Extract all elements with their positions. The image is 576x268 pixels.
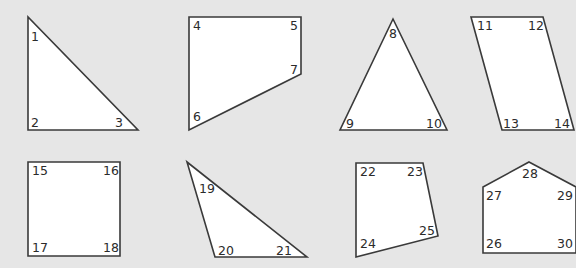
angle-label: 12 — [528, 18, 544, 33]
shape-irregular-quadrilateral: 22 23 25 24 — [356, 163, 438, 257]
angle-label: 26 — [486, 236, 502, 251]
angle-label: 23 — [407, 164, 423, 179]
angle-label: 21 — [276, 243, 292, 258]
shape-trapezoid-quadrilateral: 4 5 7 6 — [189, 17, 301, 130]
angle-label: 27 — [486, 188, 502, 203]
shape-parallelogram: 11 12 13 14 — [471, 17, 574, 131]
angle-shapes-diagram: 1 2 3 4 5 7 6 8 9 10 11 12 13 14 15 16 1… — [0, 0, 576, 268]
shape-right-triangle: 1 2 3 — [28, 17, 138, 130]
angle-label: 2 — [31, 115, 39, 130]
angle-label: 15 — [32, 163, 48, 178]
shape-square: 15 16 17 18 — [28, 162, 120, 256]
angle-label: 20 — [218, 243, 234, 258]
angle-label: 14 — [554, 116, 570, 131]
shape-pentagon-house: 28 27 29 26 30 — [483, 162, 576, 253]
shape-isosceles-triangle: 8 9 10 — [340, 19, 447, 131]
angle-label: 24 — [360, 236, 376, 251]
angle-label: 8 — [389, 26, 397, 41]
angle-label: 6 — [193, 109, 201, 124]
angle-label: 1 — [31, 29, 39, 44]
angle-label: 19 — [199, 181, 215, 196]
angle-label: 18 — [103, 240, 119, 255]
angle-label: 17 — [32, 240, 48, 255]
angle-label: 25 — [419, 223, 435, 238]
angle-label: 7 — [290, 62, 298, 77]
angle-label: 10 — [426, 116, 442, 131]
angle-label: 30 — [557, 236, 573, 251]
angle-label: 11 — [477, 18, 493, 33]
shape-scalene-triangle: 19 20 21 — [187, 162, 307, 258]
angle-label: 16 — [103, 163, 119, 178]
angle-label: 28 — [522, 166, 538, 181]
angle-label: 5 — [290, 18, 298, 33]
angle-label: 3 — [115, 115, 123, 130]
angle-label: 29 — [557, 188, 573, 203]
shape-outline — [28, 17, 138, 130]
angle-label: 13 — [503, 116, 519, 131]
angle-label: 9 — [346, 116, 354, 131]
angle-label: 4 — [193, 18, 201, 33]
angle-label: 22 — [360, 164, 376, 179]
shape-outline — [189, 17, 301, 130]
shape-outline — [471, 17, 574, 130]
